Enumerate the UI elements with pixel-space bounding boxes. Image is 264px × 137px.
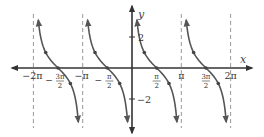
axes — [12, 6, 252, 133]
data-point — [118, 82, 122, 86]
x-tick-label: −2π — [22, 70, 42, 81]
x-tick-sign: − — [45, 75, 53, 85]
x-tick-label: 2π — [224, 70, 236, 81]
x-tick-fraction: −π2 — [95, 73, 114, 90]
x-tick-denominator: 2 — [58, 82, 62, 90]
y-tick-label: 2 — [138, 32, 144, 43]
x-tick-fraction: 3π2 — [201, 73, 210, 90]
y-tick-label: −2 — [137, 94, 151, 105]
x-tick-fraction: −3π2 — [45, 73, 65, 90]
data-point — [204, 66, 208, 70]
cot-branch-1 — [38, 20, 78, 122]
x-tick-denominator: 2 — [204, 82, 208, 90]
cotangent-chart: −2π−3π2−π−π2π2π3π22π2−2 x y — [0, 0, 264, 137]
cot-branch-4 — [186, 20, 226, 122]
data-point — [56, 66, 60, 70]
data-point — [93, 51, 97, 55]
x-tick-denominator: 2 — [107, 82, 111, 90]
x-tick-numerator: 3π — [201, 73, 210, 81]
data-point — [155, 66, 159, 70]
x-tick-denominator: 2 — [154, 82, 158, 90]
x-tick-fraction: π2 — [153, 73, 161, 90]
x-tick-sign: − — [95, 75, 103, 85]
data-point — [44, 51, 48, 55]
data-point — [167, 82, 171, 86]
data-point — [192, 51, 196, 55]
data-point — [216, 82, 220, 86]
x-tick-label: −π — [75, 70, 89, 81]
x-tick-label: π — [178, 70, 184, 81]
x-axis-label: x — [240, 53, 247, 66]
data-point — [143, 51, 147, 55]
x-tick-numerator: 3π — [56, 73, 65, 81]
x-tick-numerator: π — [154, 73, 159, 81]
data-point — [106, 66, 110, 70]
x-tick-numerator: π — [107, 73, 112, 81]
y-axis-label: y — [137, 8, 145, 21]
cot-branch-2 — [88, 20, 128, 122]
data-point — [69, 82, 73, 86]
